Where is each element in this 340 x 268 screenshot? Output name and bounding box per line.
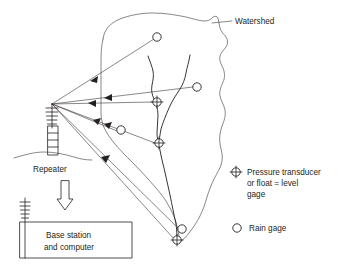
link-arrowhead: [104, 122, 112, 129]
rain-gage-mid-left: [117, 126, 125, 134]
lattice-tower-icon: [48, 126, 58, 155]
link-arrowhead: [88, 100, 96, 107]
ground-line: [14, 152, 92, 160]
legend-pressure-transducer-symbol: [230, 166, 242, 178]
link-arrowhead: [104, 94, 112, 101]
repeater-label: Repeater: [33, 165, 67, 174]
legend-pressure-transducer-line3: gage: [247, 190, 266, 199]
legend-pressure-transducer-line2: or float = level: [247, 179, 298, 188]
watershed-telemetry-diagram: Watershed Repeater Base station and comp…: [0, 0, 340, 268]
base-station-box: [20, 222, 132, 258]
stream-network: [148, 55, 190, 241]
base-station-label-line2: and computer: [44, 243, 94, 252]
legend-symbols: [230, 166, 242, 232]
level-gage-outlet: [171, 234, 183, 246]
whip-antenna-icon: [20, 198, 30, 258]
rain-gage-upper: [153, 33, 161, 41]
rain-gage-outlet: [178, 225, 186, 233]
legend-pressure-transducer-line1: Pressure transducer: [247, 168, 321, 177]
telemetry-link-group: [52, 39, 193, 240]
link-arrowhead: [101, 155, 110, 163]
watershed-label: Watershed: [235, 17, 275, 26]
legend-rain-gage-line1: Rain gage: [249, 224, 287, 233]
rain-gage-right: [193, 83, 201, 91]
level-gage-markers: [151, 96, 183, 246]
watershed-leader: [212, 21, 232, 23]
level-gage-upper: [151, 96, 163, 108]
repeater-to-base-arrow: [57, 181, 73, 210]
legend-rain-gage-symbol: [233, 224, 241, 232]
base-station-label-line1: Base station: [46, 231, 92, 240]
level-gage-mid: [153, 137, 165, 149]
diagram-canvas: Watershed Repeater Base station and comp…: [0, 0, 340, 268]
